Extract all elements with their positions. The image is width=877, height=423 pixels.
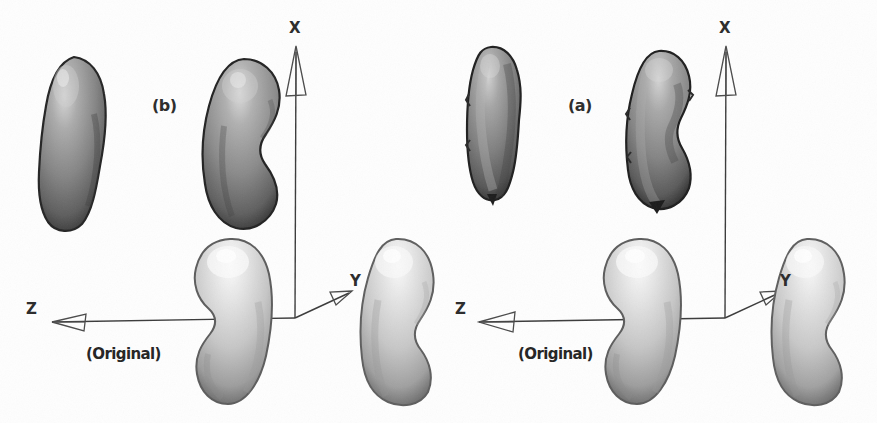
axis-label-z: Z	[455, 300, 466, 318]
mesh-shape-light-bottom-center	[593, 236, 691, 412]
figure-canvas: X Z Y (b) (Original)	[0, 0, 877, 423]
original-label-b: (Original)	[86, 345, 161, 363]
axis-label-y: Y	[350, 272, 361, 290]
mesh-shape-light-bottom-right	[354, 236, 442, 412]
panel-b: X Z Y (b) (Original)	[0, 0, 438, 423]
mesh-shape-dark-top-left	[30, 54, 114, 236]
mesh-shape-dark-top-right	[196, 56, 290, 236]
axis-label-z: Z	[26, 300, 37, 318]
axis-label-x: X	[719, 19, 731, 37]
panel-a: X Z Y (a) (Original)	[439, 0, 877, 423]
mesh-shape-rough-top-right	[619, 48, 703, 218]
panel-label-b: (b)	[152, 96, 177, 115]
mesh-shape-rough-top-left	[457, 44, 533, 208]
original-label-a: (Original)	[518, 345, 593, 363]
mesh-shape-light-bottom-center	[184, 236, 282, 412]
axis-label-y: Y	[780, 272, 791, 290]
panel-label-a: (a)	[568, 96, 592, 115]
mesh-shape-light-bottom-right	[763, 236, 853, 412]
x-axis	[716, 46, 736, 318]
axis-label-x: X	[289, 19, 301, 37]
y-axis	[295, 291, 352, 318]
